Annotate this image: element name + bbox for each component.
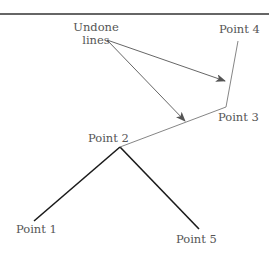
point-3-label: Point 3 <box>218 111 259 124</box>
point-4-label: Point 4 <box>219 23 260 36</box>
arrow-to-undone-line-2 <box>107 40 185 121</box>
point-1-label: Point 1 <box>16 223 57 236</box>
annotation-line-2: lines <box>68 34 124 47</box>
undone-line-point2-point3 <box>120 107 226 147</box>
undone-lines-annotation: Undone lines <box>68 21 124 47</box>
undone-line-point3-point4 <box>226 41 238 107</box>
line-point1-point2 <box>34 147 120 221</box>
arrow-to-undone-line-1 <box>107 40 225 81</box>
point-5-label: Point 5 <box>176 233 217 246</box>
point-2-label: Point 2 <box>88 132 129 145</box>
line-point2-point5 <box>120 147 199 229</box>
diagram-canvas <box>0 0 269 260</box>
